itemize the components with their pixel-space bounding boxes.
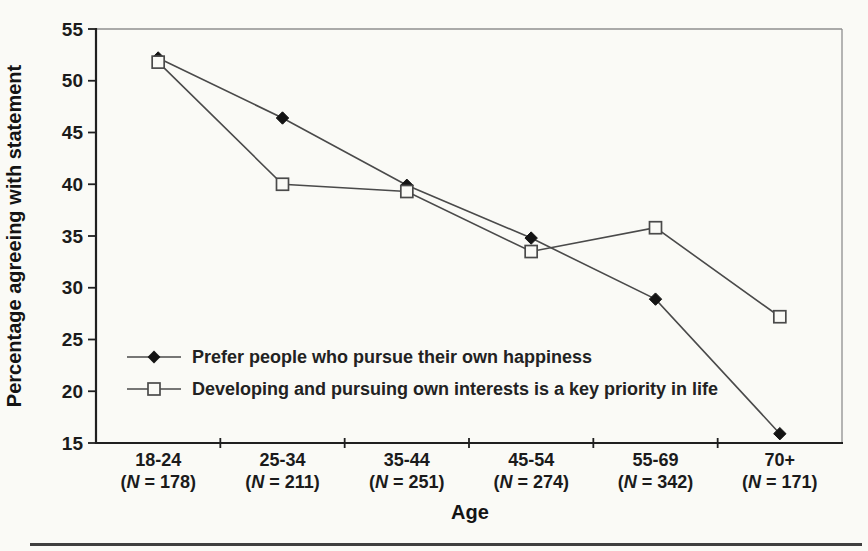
series-line-1 [158,62,780,317]
x-category-n: (N = 171) [742,472,818,492]
y-tick-label: 30 [62,277,83,298]
legend: Prefer people who pursue their own happi… [127,347,718,399]
y-tick-label: 15 [62,433,84,454]
data-point-open-square [774,311,786,323]
legend-label-interests: Developing and pursuing own interests is… [192,379,718,399]
x-axis-title: Age [451,501,489,523]
data-point-filled-diamond [276,112,288,124]
series-line-0 [158,58,780,434]
legend-filled-diamond-icon [148,351,161,364]
y-axis-title: Percentage agreeing with statement [3,65,25,408]
y-tick-label: 20 [62,381,83,402]
legend-open-square-icon [148,383,160,395]
x-category-n: (N = 251) [369,472,445,492]
data-point-open-square [277,178,289,190]
data-point-open-square [525,246,537,258]
x-category-n: (N = 342) [618,472,694,492]
x-category-label: 25-34 [259,450,305,470]
y-tick-label: 55 [62,19,84,40]
data-point-open-square [650,222,662,234]
x-category-label: 70+ [765,450,796,470]
y-tick-label: 40 [62,174,83,195]
x-category-label: 45-54 [508,450,554,470]
y-tick-label: 45 [62,122,84,143]
y-tick-label: 50 [62,70,83,91]
y-tick-label: 25 [62,329,84,350]
x-category-n: (N = 211) [245,472,320,492]
x-category-n: (N = 274) [493,472,569,492]
figure-page: Prefer people who pursue their own happi… [0,0,868,551]
data-point-filled-diamond [525,232,537,244]
x-category-n: (N = 178) [120,472,196,492]
chart-canvas: Prefer people who pursue their own happi… [0,0,868,551]
x-category-label: 35-44 [384,450,430,470]
data-point-open-square [152,56,164,68]
bottom-rule [30,543,862,546]
x-category-label: 55-69 [632,450,678,470]
data-point-open-square [401,185,413,197]
y-tick-label: 35 [62,226,84,247]
x-category-label: 18-24 [135,450,181,470]
legend-label-happiness: Prefer people who pursue their own happi… [192,347,592,367]
